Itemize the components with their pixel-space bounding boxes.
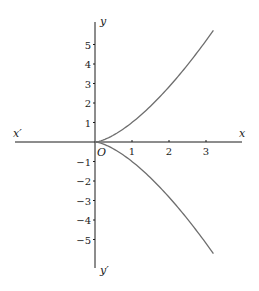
y-axis-label: y: [99, 15, 107, 28]
y-tick-label: −5: [76, 235, 91, 246]
x-axis-label: x: [239, 127, 246, 140]
lower-curve-branch: [95, 142, 213, 254]
x-tick-label: 2: [166, 146, 172, 157]
y-tick-label: 5: [85, 40, 91, 51]
y-tick-label: 2: [85, 98, 91, 109]
y-tick-label: 1: [85, 118, 91, 129]
y-tick-label: 4: [85, 59, 91, 70]
y-tick-label: −4: [76, 215, 91, 226]
plot-canvas: 12354321−1−2−3−4−5 x x′ y y′ O: [0, 0, 259, 291]
y-tick-label: −1: [76, 157, 91, 168]
upper-curve-branch: [95, 30, 213, 142]
y-tick-label: −2: [76, 176, 91, 187]
x-tick-label: 3: [203, 146, 209, 157]
x-tick-label: 1: [129, 146, 135, 157]
y-negative-axis-label: y′: [99, 264, 109, 277]
origin-label: O: [97, 146, 106, 159]
x-negative-axis-label: x′: [13, 127, 22, 140]
y-tick-label: 3: [85, 79, 91, 90]
y-tick-label: −3: [76, 196, 91, 207]
